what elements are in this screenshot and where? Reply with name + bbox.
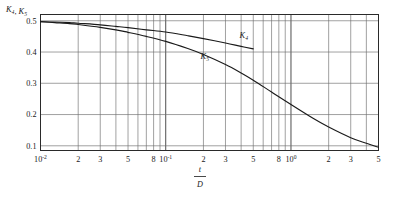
x-tick-label-minor: 2 xyxy=(327,155,331,164)
chart-canvas: 0.10.20.30.40.5 10-210-110023582358235 K… xyxy=(0,0,394,197)
curve-k5 xyxy=(41,22,379,148)
x-tick-label-minor: 8 xyxy=(277,155,281,164)
x-tick-label-minor: 3 xyxy=(223,155,227,164)
y-axis-title-text: K4, K5 xyxy=(5,5,27,17)
x-axis-ticks: 10-210-110023582358235 xyxy=(34,154,380,164)
x-tick-label-minor: 2 xyxy=(76,155,80,164)
x-tick-label-minor: 5 xyxy=(126,155,130,164)
x-tick-label-minor: 5 xyxy=(376,155,380,164)
x-axis-title: tD xyxy=(194,165,206,189)
y-tick-label: 0.1 xyxy=(26,142,36,151)
x-tick-label-minor: 2 xyxy=(201,155,205,164)
curve-k4 xyxy=(41,22,254,49)
x-axis-title-denominator: D xyxy=(196,180,203,189)
x-tick-label-major: 10-2 xyxy=(34,154,47,164)
vertical-gridlines xyxy=(41,15,379,151)
x-tick-label-minor: 3 xyxy=(349,155,353,164)
x-tick-label-minor: 5 xyxy=(251,155,255,164)
chart-figure: 0.10.20.30.40.5 10-210-110023582358235 K… xyxy=(0,0,394,197)
x-tick-label-major: 100 xyxy=(285,154,296,164)
y-tick-label: 0.4 xyxy=(26,48,36,57)
y-tick-label: 0.5 xyxy=(26,17,36,26)
y-tick-label: 0.2 xyxy=(26,110,36,119)
x-tick-label-minor: 8 xyxy=(152,155,156,164)
x-axis-title-numerator: t xyxy=(199,165,202,174)
plot-border xyxy=(41,15,379,151)
y-axis-ticks: 0.10.20.30.40.5 xyxy=(26,17,36,151)
x-tick-label-minor: 3 xyxy=(98,155,102,164)
y-axis-title: K4, K5 xyxy=(5,5,27,17)
plot-frame xyxy=(41,15,379,151)
curve-label-k5: K5 xyxy=(200,52,210,62)
x-tick-label-major: 10-1 xyxy=(159,154,172,164)
data-curves xyxy=(41,22,379,148)
curve-label-k4: K4 xyxy=(239,31,249,41)
y-tick-label: 0.3 xyxy=(26,79,36,88)
